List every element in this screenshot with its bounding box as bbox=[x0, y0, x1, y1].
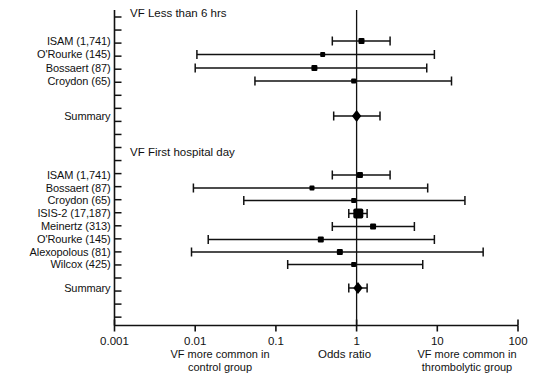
g2-row-2-point-marker bbox=[351, 198, 356, 203]
x-axis-tick-label: 100 bbox=[478, 335, 545, 347]
study-label: Croydon (65) bbox=[0, 76, 111, 87]
study-label: ISAM (1,741) bbox=[0, 36, 111, 47]
study-label: Croydon (65) bbox=[0, 195, 111, 206]
study-label: O'Rourke (145) bbox=[0, 234, 111, 245]
study-label: O'Rourke (145) bbox=[0, 49, 111, 60]
g1-row-2-point-marker bbox=[311, 65, 317, 71]
forest-plot-figure: 0.0010.010.1110100VF Less than 6 hrsVF F… bbox=[0, 0, 545, 384]
g1-row-1-point-marker bbox=[320, 52, 325, 57]
study-label: Alexopolous (81) bbox=[0, 247, 111, 258]
g2-row-4-point-marker bbox=[370, 224, 376, 230]
study-label: ISIS-2 (17,187) bbox=[0, 208, 111, 219]
summary-label: Summary bbox=[0, 111, 111, 122]
g2-row-3-point-marker bbox=[353, 209, 363, 219]
study-label: Bossaert (87) bbox=[0, 183, 111, 194]
right-direction-caption: VF more common inthrombolytic group bbox=[392, 348, 542, 374]
left-caption-line-1: VF more common in bbox=[145, 348, 295, 361]
g2-row-7-point-marker bbox=[351, 262, 356, 267]
group-title-vf-less-than-6-hrs: VF Less than 6 hrs bbox=[130, 7, 227, 19]
group-title-vf-first-hospital-day: VF First hospital day bbox=[130, 146, 235, 158]
left-caption-line-2: control group bbox=[145, 361, 295, 374]
study-label: ISAM (1,741) bbox=[0, 170, 111, 181]
g1-row-3-point-marker bbox=[351, 79, 356, 84]
right-caption-line-2: thrombolytic group bbox=[392, 361, 542, 374]
x-axis-tick-label: 0.1 bbox=[236, 335, 316, 347]
study-label: Wilcox (425) bbox=[0, 259, 111, 270]
left-direction-caption: VF more common incontrol group bbox=[145, 348, 295, 374]
g2-row-6-point-marker bbox=[337, 249, 343, 255]
g2-summary-summary-marker bbox=[353, 282, 362, 294]
g2-row-5-point-marker bbox=[318, 237, 324, 243]
x-axis-tick-label: 1 bbox=[317, 335, 397, 347]
x-axis-tick-label: 0.01 bbox=[155, 335, 235, 347]
x-axis-tick-label: 0.001 bbox=[75, 335, 155, 347]
g2-row-1-point-marker bbox=[309, 186, 314, 191]
study-label: Bossaert (87) bbox=[0, 63, 111, 74]
summary-label: Summary bbox=[0, 283, 111, 294]
study-label: Meinertz (313) bbox=[0, 221, 111, 232]
right-caption-line-1: VF more common in bbox=[392, 348, 542, 361]
x-axis-tick-label: 10 bbox=[397, 335, 477, 347]
g1-row-0-point-marker bbox=[358, 38, 364, 44]
x-axis-title: Odds ratio bbox=[318, 348, 371, 361]
g2-row-0-point-marker bbox=[357, 172, 363, 178]
g1-summary-summary-marker bbox=[352, 110, 361, 122]
